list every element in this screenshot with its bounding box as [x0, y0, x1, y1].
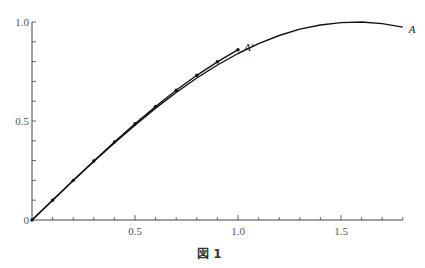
- data-point: [236, 48, 239, 51]
- axes: 0.51.01.500.51.0: [15, 16, 403, 237]
- x-tick-label: 1.5: [334, 225, 348, 237]
- data-point: [216, 60, 219, 63]
- data-point: [113, 140, 116, 143]
- data-point: [175, 89, 178, 92]
- data-point: [133, 122, 136, 125]
- x-tick-label: 0.5: [128, 225, 142, 237]
- data-point: [195, 74, 198, 77]
- curve-label-a-prime: A′: [243, 41, 254, 53]
- x-tick-label: 1.0: [231, 225, 245, 237]
- series: AA′: [30, 22, 416, 222]
- curve-label-a: A: [408, 23, 416, 35]
- data-point: [72, 179, 75, 182]
- data-point: [154, 105, 157, 108]
- figure-caption: 図 1: [197, 244, 222, 261]
- y-tick-label: 0: [24, 214, 30, 226]
- series-a-line: [32, 22, 403, 220]
- data-point: [51, 199, 54, 202]
- series-a-prime-line: [32, 50, 238, 220]
- data-point: [30, 218, 33, 221]
- chart: 0.51.01.500.51.0 AA′: [0, 0, 425, 268]
- y-tick-label: 0.5: [15, 115, 29, 127]
- y-tick-label: 1.0: [15, 16, 29, 28]
- data-point: [92, 159, 95, 162]
